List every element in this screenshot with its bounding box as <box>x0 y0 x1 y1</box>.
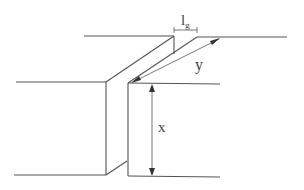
depth-label: y <box>195 56 203 74</box>
left-core-block <box>14 36 174 175</box>
depth-dimension: y <box>131 38 220 83</box>
height-dimension: x <box>149 84 166 176</box>
arrowhead-icon <box>210 38 220 45</box>
gap-length-dimension: lg <box>174 12 197 33</box>
height-label: x <box>158 119 166 135</box>
arrowhead-icon <box>149 168 155 176</box>
gap-length-label: lg <box>181 12 190 30</box>
air-gap-diagram: lg y x <box>0 0 304 190</box>
arrowhead-icon <box>149 84 155 92</box>
